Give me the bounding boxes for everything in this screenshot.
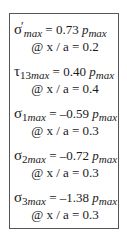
equals: = [46,106,60,121]
equals: = [46,190,60,205]
p-symbol: p [92,148,99,163]
subscript: 1max [22,111,46,123]
value: –0.59 [60,106,89,121]
results-summary-box: σ′max = 0.73 pmax @ x / a = 0.2 τ13max =… [9,13,119,229]
subscript: max [24,27,42,39]
equation: σ3max = –1.38 pmax [14,189,117,206]
p-subscript: max [96,69,114,81]
location: @ x / a = 0.2 [10,39,120,55]
equation: τ13max = 0.40 pmax [14,63,114,80]
subscript: 2max [22,153,46,165]
equals: = [49,64,63,79]
value: –1.38 [60,190,89,205]
equation: σ1max = –0.59 pmax [14,105,117,122]
p-subscript: max [99,111,117,123]
equals: = [42,22,56,37]
p-symbol: p [89,64,96,79]
location: @ x / a = 0.3 [10,207,120,223]
p-subscript: max [99,195,117,207]
equation: σ′max = 0.73 pmax [14,21,107,38]
symbol-sigma: σ [14,147,22,163]
subscript: 13max [20,69,49,81]
subscript: 3max [22,195,46,207]
p-symbol: p [92,190,99,205]
value: 0.73 [56,22,79,37]
equation: σ2max = –0.72 pmax [14,147,117,164]
location: @ x / a = 0.3 [10,165,120,181]
equals: = [46,148,60,163]
p-subscript: max [99,153,117,165]
symbol-sigma: σ [14,189,22,205]
value: –0.72 [60,148,89,163]
value: 0.40 [63,64,86,79]
symbol-sigma: σ [14,105,22,121]
p-symbol: p [92,106,99,121]
location: @ x / a = 0.3 [10,123,120,139]
location: @ x / a = 0.4 [10,81,120,97]
p-subscript: max [88,27,106,39]
